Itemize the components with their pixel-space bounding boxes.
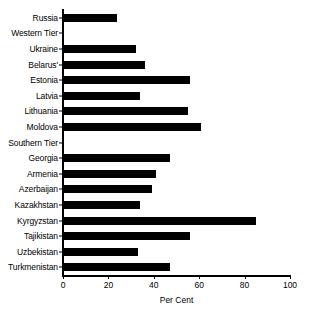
category-label: Latvia	[36, 92, 58, 101]
bar	[63, 201, 140, 209]
y-tick-mark	[59, 236, 63, 237]
bar-row: Latvia	[63, 88, 290, 104]
x-tick-label: 20	[104, 281, 113, 290]
x-tick-mark	[108, 275, 109, 279]
bar	[63, 76, 190, 84]
y-tick-mark	[59, 189, 63, 190]
bar-row: Uzbekistan	[63, 244, 290, 260]
category-label: Azerbaijan	[19, 185, 58, 194]
category-label: Belarus'	[28, 60, 58, 69]
category-label: Kazakhstan	[15, 201, 58, 210]
y-tick-mark	[59, 220, 63, 221]
bar	[63, 14, 117, 22]
category-label: Southern Tier	[8, 138, 58, 147]
x-tick-mark	[63, 275, 64, 279]
x-tick-label: 80	[240, 281, 249, 290]
bar	[63, 123, 201, 131]
bar-row: Kazakhstan	[63, 197, 290, 213]
bar-row: Azerbaijan	[63, 182, 290, 198]
x-tick-mark	[199, 275, 200, 279]
bar-row: Moldova	[63, 119, 290, 135]
category-label: Uzbekistan	[17, 247, 58, 256]
category-label: Russia	[33, 14, 58, 23]
x-tick-mark	[245, 275, 246, 279]
category-label: Tajikistan	[24, 232, 58, 241]
x-tick-label: 40	[149, 281, 158, 290]
x-axis-ticks: 020406080100	[63, 275, 290, 295]
category-label: Turkmenistan	[8, 263, 58, 272]
bar-row: Turkmenistan	[63, 260, 290, 276]
y-tick-mark	[59, 158, 63, 159]
y-tick-mark	[59, 95, 63, 96]
y-tick-mark	[59, 267, 63, 268]
bar	[63, 45, 136, 53]
bar	[63, 217, 256, 225]
bar-row: Belarus'	[63, 57, 290, 73]
plot-area: RussiaWestern TierUkraineBelarus'Estonia…	[63, 10, 290, 275]
y-tick-mark	[59, 111, 63, 112]
bar-row: Estonia	[63, 72, 290, 88]
y-tick-mark	[59, 204, 63, 205]
y-tick-mark	[59, 251, 63, 252]
bar	[63, 170, 156, 178]
category-label: Georgia	[28, 154, 58, 163]
category-label: Kyrgyzstan	[17, 216, 58, 225]
y-tick-mark	[59, 33, 63, 34]
bar	[63, 107, 188, 115]
category-label: Estonia	[30, 76, 58, 85]
x-tick-label: 100	[283, 281, 297, 290]
y-tick-mark	[59, 17, 63, 18]
bar-row: Armenia	[63, 166, 290, 182]
bar	[63, 61, 145, 69]
bar	[63, 232, 190, 240]
x-axis-title: Per Cent	[63, 296, 290, 305]
category-label: Armenia	[27, 169, 58, 178]
y-tick-mark	[59, 142, 63, 143]
y-tick-mark	[59, 173, 63, 174]
bar	[63, 185, 152, 193]
bar-row: Lithuania	[63, 104, 290, 120]
category-label: Lithuania	[24, 107, 58, 116]
y-tick-mark	[59, 126, 63, 127]
bar-row: Georgia	[63, 150, 290, 166]
y-tick-mark	[59, 48, 63, 49]
y-tick-mark	[59, 64, 63, 65]
bar-chart: RussiaWestern TierUkraineBelarus'Estonia…	[0, 0, 328, 318]
bar	[63, 154, 170, 162]
category-label: Western Tier	[11, 29, 58, 38]
bar-row: Kyrgyzstan	[63, 213, 290, 229]
bar	[63, 248, 138, 256]
x-tick-mark	[154, 275, 155, 279]
x-tick-label: 0	[61, 281, 66, 290]
bar-row: Southern Tier	[63, 135, 290, 151]
x-tick-label: 60	[194, 281, 203, 290]
category-label: Ukraine	[29, 45, 58, 54]
y-tick-mark	[59, 80, 63, 81]
bar-row: Russia	[63, 10, 290, 26]
x-tick-mark	[290, 275, 291, 279]
bar-rows: RussiaWestern TierUkraineBelarus'Estonia…	[63, 10, 290, 275]
bar	[63, 263, 170, 271]
category-label: Moldova	[27, 123, 58, 132]
bar-row: Ukraine	[63, 41, 290, 57]
bar	[63, 92, 140, 100]
bar-row: Tajikistan	[63, 228, 290, 244]
bar-row: Western Tier	[63, 26, 290, 42]
